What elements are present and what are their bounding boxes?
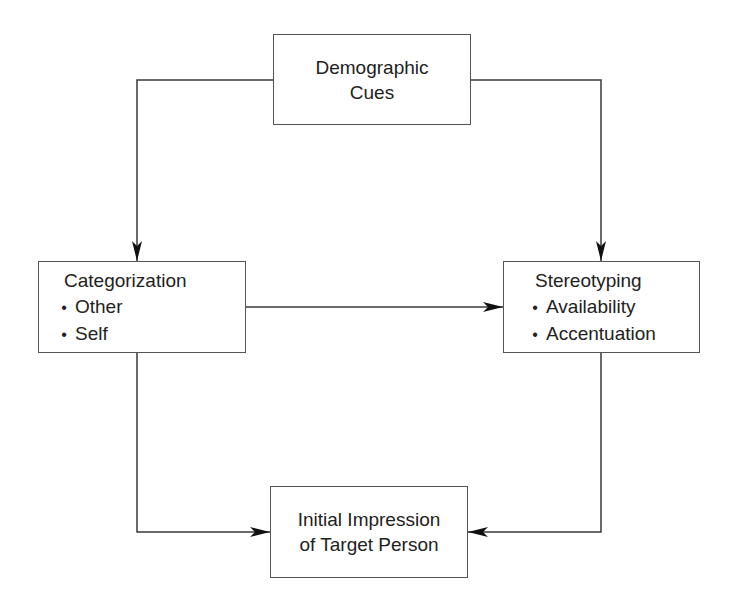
- edge-demographic-to-categorization: [137, 80, 273, 261]
- bullet-icon: •: [524, 295, 546, 321]
- list-item: •Accentuation: [504, 321, 699, 348]
- list-item: •Other: [39, 294, 245, 321]
- list-item-label: Availability: [546, 296, 635, 317]
- node-categorization: Categorization •Other •Self: [38, 261, 246, 353]
- node-demographic-cues: Demographic Cues: [273, 34, 471, 125]
- bullet-icon: •: [53, 322, 75, 348]
- bullet-icon: •: [524, 322, 546, 348]
- node-title: Categorization: [39, 268, 245, 294]
- list-item: •Availability: [504, 294, 699, 321]
- node-title: Stereotyping: [504, 268, 699, 294]
- edge-demographic-to-stereotyping: [471, 80, 601, 261]
- list-item-label: Accentuation: [546, 323, 656, 344]
- node-label-line: Cues: [350, 80, 394, 105]
- node-initial-impression: Initial Impression of Target Person: [270, 486, 468, 578]
- node-stereotyping: Stereotyping •Availability •Accentuation: [503, 261, 700, 353]
- edge-categorization-to-impression: [137, 353, 270, 532]
- node-label-line: Demographic: [316, 55, 429, 80]
- list-item-label: Self: [75, 323, 108, 344]
- node-label-line: of Target Person: [299, 532, 438, 557]
- bullet-icon: •: [53, 295, 75, 321]
- list-item: •Self: [39, 321, 245, 348]
- edge-stereotyping-to-impression: [468, 353, 601, 532]
- node-label-line: Initial Impression: [298, 507, 441, 532]
- list-item-label: Other: [75, 296, 123, 317]
